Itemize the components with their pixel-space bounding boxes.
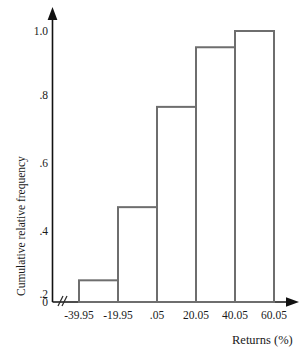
- bar-1: [79, 280, 118, 302]
- bar-2: [118, 207, 157, 302]
- cumulative-frequency-chart: 1.0 .8 .6 .4 .2 0 -39.95 -19.95 .05 20.0…: [0, 0, 306, 355]
- y-tick-label-1.0: 1.0: [22, 26, 48, 38]
- bar-series: [79, 31, 274, 302]
- y-tick-label-0: 0: [22, 297, 48, 309]
- bar-5: [235, 31, 274, 302]
- x-tick-label-60.05: 60.05: [246, 310, 302, 322]
- y-axis: [48, 7, 58, 302]
- bar-3: [157, 107, 196, 302]
- axis-break-icon: [58, 296, 67, 306]
- x-axis-title: Returns (%): [232, 334, 293, 347]
- x-axis-ticks: [79, 290, 274, 302]
- y-axis-title: Cumulative relative frequency: [16, 156, 28, 296]
- bar-4: [196, 47, 235, 302]
- y-tick-label-0.8: .8: [22, 90, 48, 102]
